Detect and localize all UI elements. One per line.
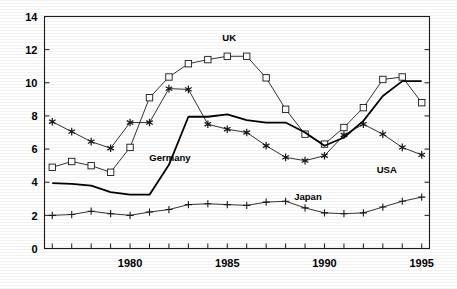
series-annotation-uk: UK [222,32,236,43]
data-point-marker-square [88,162,94,168]
data-point-marker-square [263,75,269,81]
data-point-marker-asterisk [399,144,406,152]
data-point-marker-asterisk [88,138,95,146]
chart-container: 024681012141980198519901995UKUSAGermanyJ… [0,0,457,289]
x-axis-tick-label: 1980 [118,257,142,269]
data-point-marker-square [341,124,347,130]
data-point-marker-square [146,95,152,101]
series-line [52,56,421,172]
y-axis-tick-label: 0 [31,243,37,255]
data-point-marker-square [380,76,386,82]
data-point-marker-square [224,53,230,59]
data-point-marker-asterisk [68,128,75,136]
plot-frame [45,17,430,249]
data-point-marker-asterisk [263,142,270,150]
data-point-marker-plus [107,210,114,217]
y-axis-tick-label: 12 [25,44,37,56]
data-point-marker-square [166,74,172,80]
data-point-marker-plus [340,210,347,217]
data-point-marker-plus [360,209,367,216]
x-axis-tick-label: 1990 [312,257,336,269]
data-point-marker-plus [243,202,250,209]
data-point-marker-plus [321,209,328,216]
data-point-marker-plus [204,200,211,207]
x-axis-tick-label: 1985 [215,257,239,269]
data-point-marker-plus [282,198,289,205]
y-axis-tick-label: 8 [31,110,37,122]
data-point-marker-square [282,106,288,112]
data-point-marker-asterisk [418,151,425,159]
series-usa [49,85,425,165]
line-chart: 024681012141980198519901995UKUSAGermanyJ… [0,0,457,289]
series-germany [52,81,421,195]
y-axis-tick-label: 10 [25,77,37,89]
data-point-marker-plus [88,208,95,215]
data-point-marker-square [127,144,133,150]
data-point-marker-square [244,53,250,59]
data-point-marker-square [360,104,366,110]
data-point-marker-square [185,61,191,67]
data-point-marker-plus [146,208,153,215]
data-point-marker-square [419,99,425,105]
x-axis-tick-label: 1995 [409,257,433,269]
data-point-marker-asterisk [49,118,56,126]
data-point-marker-plus [379,203,386,210]
series-line [52,81,421,195]
y-axis-tick-label: 14 [25,11,38,23]
series-japan [49,194,426,219]
data-point-marker-plus [263,199,270,206]
data-point-marker-plus [68,211,75,218]
data-point-marker-plus [399,198,406,205]
data-point-marker-plus [224,201,231,208]
data-point-marker-square [205,56,211,62]
data-point-marker-plus [301,204,308,211]
data-point-marker-asterisk [380,130,387,138]
data-point-marker-square [49,164,55,170]
data-point-marker-plus [165,206,172,213]
data-point-marker-square [399,74,405,80]
data-point-marker-plus [126,212,133,219]
data-point-marker-plus [418,194,425,201]
data-point-marker-square [69,158,75,164]
y-axis-tick-label: 6 [31,143,37,155]
series-annotation-usa: USA [377,164,397,175]
data-point-marker-plus [185,201,192,208]
series-annotation-germany: Germany [149,152,191,163]
y-axis-tick-label: 4 [31,176,38,188]
data-point-marker-square [107,169,113,175]
series-annotation-japan: Japan [294,191,322,202]
data-point-marker-plus [49,212,56,219]
data-point-marker-asterisk [205,120,212,128]
y-axis-tick-label: 2 [31,210,37,222]
